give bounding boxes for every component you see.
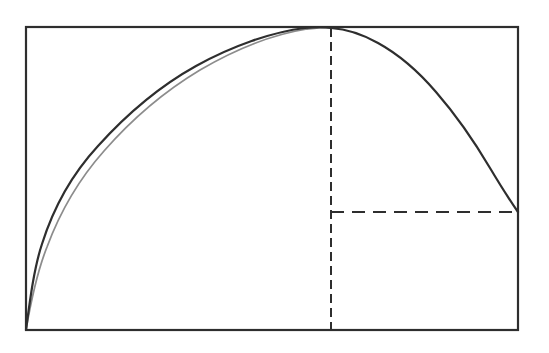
figure-svg <box>0 0 549 353</box>
figure-background <box>0 0 549 353</box>
figure-container <box>0 0 549 353</box>
